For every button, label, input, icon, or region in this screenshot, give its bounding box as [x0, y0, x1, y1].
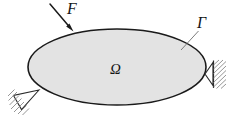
support-left [8, 90, 39, 116]
support-right-hatching [214, 60, 227, 89]
domain-label: Ω [110, 62, 121, 77]
support-left-triangle [14, 90, 40, 110]
force-label: F [67, 1, 77, 17]
boundary-label: Γ [197, 15, 206, 31]
support-right [205, 60, 226, 89]
figure-container: F Γ Ω [0, 0, 231, 118]
